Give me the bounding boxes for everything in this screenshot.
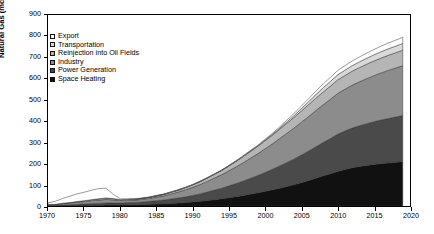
x-axis-tick-mark — [47, 207, 48, 211]
chart-legend: ExportTransportationReinjection into Oil… — [50, 32, 139, 84]
y-axis-tick-label-700: 700 — [11, 53, 41, 61]
x-axis-tick-label-1970: 1970 — [29, 211, 65, 220]
x-axis-tick-label-2010: 2010 — [320, 211, 356, 220]
x-axis-tick-label-2000: 2000 — [247, 211, 283, 220]
legend-item: Space Heating — [50, 75, 139, 84]
legend-swatch-icon — [50, 60, 55, 65]
legend-swatch-icon — [50, 77, 55, 82]
x-axis-tick-label-1990: 1990 — [175, 211, 211, 220]
y-axis-label: Natural Gas (mcm/d) — [0, 0, 6, 58]
legend-swatch-icon — [50, 42, 55, 47]
x-axis-tick-mark — [338, 207, 339, 211]
x-axis-tick-mark — [83, 207, 84, 211]
y-axis-tick-label-800: 800 — [11, 31, 41, 39]
y-axis-tick-label-200: 200 — [11, 160, 41, 168]
x-axis-tick-label-2015: 2015 — [357, 211, 393, 220]
legend-swatch-icon — [50, 51, 55, 56]
x-axis-tick-mark — [302, 207, 303, 211]
y-axis-tick-label-400: 400 — [11, 117, 41, 125]
x-axis-tick-mark — [193, 207, 194, 211]
x-axis-tick-mark — [265, 207, 266, 211]
y-axis-tick-label-500: 500 — [11, 96, 41, 104]
x-axis-tick-mark — [375, 207, 376, 211]
y-axis-tick-label-600: 600 — [11, 74, 41, 82]
x-axis-tick-label-1980: 1980 — [102, 211, 138, 220]
x-axis-tick-label-1985: 1985 — [138, 211, 174, 220]
x-axis-tick-label-2005: 2005 — [284, 211, 320, 220]
x-axis-tick-mark — [120, 207, 121, 211]
x-axis-tick-mark — [156, 207, 157, 211]
y-axis-tick-label-0: 0 — [11, 203, 41, 211]
x-axis-tick-mark — [411, 207, 412, 211]
x-axis-tick-label-1975: 1975 — [65, 211, 101, 220]
y-axis-tick-label-900: 900 — [11, 10, 41, 18]
chart-figure: Natural Gas (mcm/d) 01002003004005006007… — [0, 0, 434, 234]
x-axis-tick-mark — [229, 207, 230, 211]
legend-swatch-icon — [50, 34, 55, 39]
legend-swatch-icon — [50, 68, 55, 73]
y-axis-tick-label-100: 100 — [11, 182, 41, 190]
x-axis-tick-label-2020: 2020 — [393, 211, 429, 220]
legend-item-label: Space Heating — [58, 75, 105, 84]
x-axis-tick-label-1995: 1995 — [211, 211, 247, 220]
y-axis-tick-label-300: 300 — [11, 139, 41, 147]
